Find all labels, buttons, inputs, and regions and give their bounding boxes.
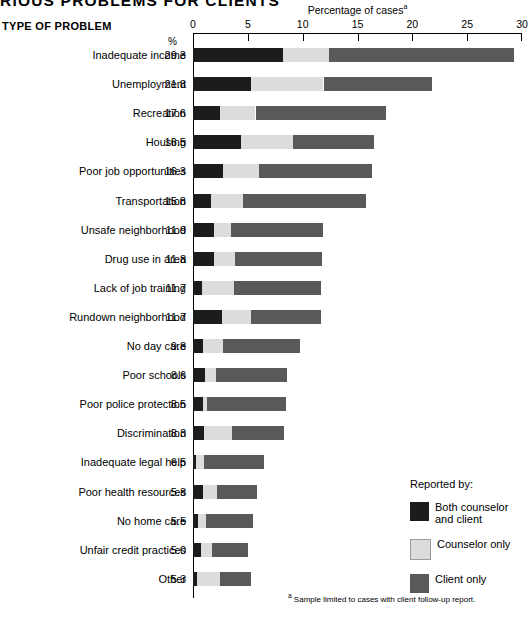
bar-segment-client [217,485,256,499]
bar-row [193,339,300,353]
footnote: a Sample limited to cases with client fo… [288,592,475,604]
bar-row [193,485,257,499]
bar-segment-client [259,164,372,178]
bar-segment-counselor [205,368,216,382]
bar-segment-both [193,135,241,149]
bar-segment-client [207,397,286,411]
category-value: 5.5 [158,515,186,527]
bar-segment-counselor [197,572,220,586]
bar-segment-both [193,194,211,208]
bar-segment-client [329,48,514,62]
legend-item-both-counselor-and-client: Both counselorand client [410,502,510,525]
x-axis-tick-label-20: 20 [406,18,418,30]
bar-segment-client [256,106,387,120]
bar-row [193,455,264,469]
legend-label-counselor-only: Counselor only [437,539,510,551]
bar-segment-counselor [203,339,223,353]
bar-segment-counselor [251,77,323,91]
bar-segment-counselor [220,106,255,120]
category-value: 5.8 [158,486,186,498]
bar-segment-both [193,485,203,499]
x-axis-tick-15 [358,34,359,41]
legend-label-line1: Both counselor [435,502,508,514]
x-axis-tick-label-10: 10 [297,18,309,30]
bar-segment-both [193,310,222,324]
bar-segment-counselor [211,194,244,208]
bar-segment-client [234,281,322,295]
bar-row [193,281,321,295]
x-axis-tick-label-30: 30 [516,18,528,30]
bar-row [193,135,374,149]
bar-row [193,48,514,62]
x-axis-tick-10 [303,34,304,41]
legend-label-client-only: Client only [435,574,486,586]
bar-segment-counselor [222,310,252,324]
bar-segment-both [193,397,203,411]
bar-segment-client [216,368,287,382]
category-value: 15.8 [158,195,186,207]
bar-segment-both [193,339,203,353]
x-axis-tick-label-0: 0 [190,18,196,30]
legend-label-line1: Client only [435,574,486,586]
x-axis-tick-5 [248,34,249,41]
bar-segment-counselor [283,48,329,62]
x-axis-tick-30 [521,34,522,41]
bar-row [193,223,324,237]
bar-segment-both [193,252,214,266]
category-value: 5.3 [158,573,186,585]
bar-segment-counselor [241,135,293,149]
bar-segment-both [193,426,204,440]
category-value: 9.8 [158,340,186,352]
bar-segment-counselor [198,514,206,528]
bar-segment-both [193,368,205,382]
bar-segment-client [243,194,366,208]
bar-segment-counselor [214,252,235,266]
bar-segment-client [204,455,264,469]
bar-row [193,194,366,208]
category-value: 21.8 [158,78,186,90]
x-axis-tick-label-25: 25 [461,18,473,30]
bar-segment-both [193,281,202,295]
category-value: 16.5 [158,136,186,148]
legend-swatch-counselor-only [410,539,431,560]
category-value: 17.6 [158,107,186,119]
category-value: 11.7 [158,311,186,323]
legend-swatch-both-counselor-and-client [410,502,429,521]
bar-segment-client [235,252,323,266]
bar-segment-client [212,543,248,557]
bar-row [193,543,248,557]
bar-segment-client [223,339,301,353]
bar-segment-counselor [223,164,259,178]
category-value: 8.3 [158,427,186,439]
bar-segment-client [231,223,323,237]
footnote-text: Sample limited to cases with client foll… [294,595,475,604]
bar-row [193,426,284,440]
bar-segment-both [193,164,223,178]
bar-segment-both [193,106,220,120]
legend-swatch-client-only [410,574,429,593]
legend-label-line2: and client [435,514,508,526]
category-value: 6.5 [158,456,186,468]
legend-label-line1: Counselor only [437,539,510,551]
x-axis-tick-25 [467,34,468,41]
bar-segment-both [193,543,201,557]
bar-segment-counselor [204,426,233,440]
legend-items: Both counselorand clientCounselor onlyCl… [410,502,510,593]
legend-label-both-counselor-and-client: Both counselorand client [435,502,508,525]
category-value: 5.0 [158,544,186,556]
x-axis-title-footnote-marker: a [403,3,407,10]
y-axis-labels: Inadequate income29.3Unemployment21.8Rec… [0,0,186,620]
bar-segment-counselor [196,455,204,469]
bar-segment-both [193,77,251,91]
bar-segment-counselor [203,485,217,499]
x-axis-title: Percentage of casesa [193,3,522,16]
bar-segment-counselor [214,223,232,237]
category-value: 8.5 [158,398,186,410]
bar-row [193,368,287,382]
x-axis-tick-label-5: 5 [245,18,251,30]
x-axis-tick-0 [193,34,194,41]
bar-row [193,310,321,324]
legend-item-counselor-only: Counselor only [410,539,510,560]
legend-title: Reported by: [410,478,510,490]
category-value: 16.3 [158,165,186,177]
